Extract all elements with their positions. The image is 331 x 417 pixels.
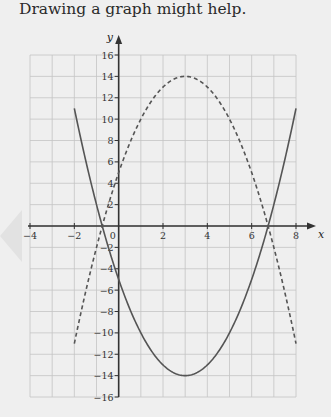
y-axis-arrow-icon	[115, 35, 122, 44]
y-tick-label: 6	[108, 156, 114, 167]
y-tick-label: 16	[102, 50, 114, 61]
y-tick-label: 8	[108, 135, 114, 146]
x-tick-label: 8	[293, 230, 299, 241]
x-axis-arrow-icon	[307, 223, 316, 230]
y-tick-label: −12	[94, 349, 114, 360]
x-tick-label: −2	[67, 230, 81, 241]
y-axis-label: y	[106, 31, 114, 44]
x-tick-label: 2	[160, 230, 166, 241]
y-tick-label: −6	[100, 285, 114, 296]
x-axis-label: x	[318, 228, 325, 241]
x-tick-label: 4	[204, 230, 210, 241]
y-tick-label: 14	[102, 71, 114, 82]
y-tick-label: −16	[94, 392, 114, 403]
x-tick-label: 0	[110, 230, 116, 241]
y-tick-label: −14	[94, 370, 114, 381]
y-tick-label: −10	[94, 327, 114, 338]
y-tick-label: −4	[100, 263, 114, 274]
y-tick-label: −8	[100, 306, 114, 317]
parabola-graph: xy−4−202468−16−14−12−10−8−6−4−2246810121…	[0, 0, 331, 417]
y-tick-label: 12	[102, 92, 114, 103]
x-tick-label: 6	[249, 230, 255, 241]
y-tick-label: 10	[102, 114, 114, 125]
x-tick-label: −4	[23, 230, 37, 241]
y-tick-label: 4	[108, 178, 114, 189]
